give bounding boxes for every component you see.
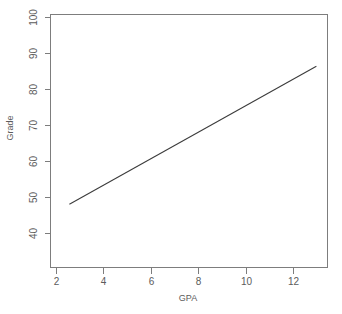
- y-tick-label-40: 40: [28, 228, 39, 240]
- regression-line: [69, 66, 316, 204]
- y-tick-label-60: 60: [28, 156, 39, 168]
- x-tick-label-6: 6: [149, 276, 155, 287]
- line-chart-svg: 100 90 80 70 60 50 40 2 4 6 8 10 12 GPA: [0, 0, 342, 314]
- x-tick-label-12: 12: [288, 276, 300, 287]
- y-tick-label-100: 100: [28, 9, 39, 26]
- x-axis-tick-labels: 2 4 6 8 10 12: [54, 276, 300, 287]
- y-tick-label-50: 50: [28, 192, 39, 204]
- y-axis-ticks: [45, 18, 51, 234]
- y-axis-tick-labels: 100 90 80 70 60 50 40: [28, 9, 39, 239]
- y-tick-label-90: 90: [28, 48, 39, 60]
- x-tick-label-4: 4: [101, 276, 107, 287]
- x-tick-label-8: 8: [196, 276, 202, 287]
- x-axis-ticks: [57, 268, 294, 274]
- y-tick-label-80: 80: [28, 84, 39, 96]
- x-tick-label-2: 2: [54, 276, 60, 287]
- chart-figure: 100 90 80 70 60 50 40 2 4 6 8 10 12 GPA: [0, 0, 342, 314]
- x-axis-title: GPA: [179, 293, 197, 303]
- y-axis-title: Grade: [5, 115, 15, 140]
- x-tick-label-10: 10: [241, 276, 253, 287]
- y-tick-label-70: 70: [28, 120, 39, 132]
- plot-box-border: [51, 15, 328, 268]
